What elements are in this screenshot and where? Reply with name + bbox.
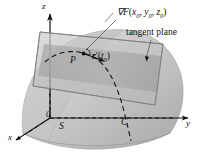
tangent-vector-label: r′(t0) <box>92 52 110 63</box>
point-P-label: P <box>70 56 76 66</box>
gradient-label: ∇F(x0, y0, z0) <box>117 8 167 19</box>
surface-S-label: S <box>59 122 64 132</box>
curve-C-label: C <box>121 118 127 128</box>
figure-canvas <box>0 0 201 155</box>
gradient-label-tick <box>105 13 113 22</box>
y-axis-label: y <box>186 119 190 128</box>
tangent-plane-label: tangent plane <box>126 28 177 38</box>
gradient-paren-close: ) <box>163 7 166 17</box>
z-axis-label: z <box>42 2 46 11</box>
gradient-symbol-text: ∇F <box>117 7 129 17</box>
x-axis-label: x <box>8 133 12 142</box>
origin-label: 0 <box>46 110 51 119</box>
tangent-plane-figure: ∇F(x0, y0, z0) tangent plane P r′(t0) z … <box>0 0 201 155</box>
tangent-vector-close-text: ) <box>107 51 110 61</box>
